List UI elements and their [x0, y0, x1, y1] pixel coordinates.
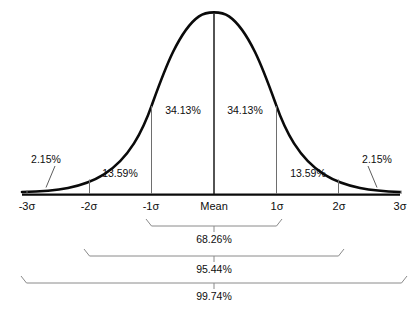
segment-label-inner-right: 34.13% [227, 104, 263, 116]
bracket-label-three-sigma: 99.74% [196, 290, 232, 302]
segment-label-mid-left: 13.59% [102, 167, 138, 179]
axis-tick-label-pos3sigma: 3σ [394, 200, 407, 212]
bracket-label-two-sigma: 95.44% [196, 263, 232, 275]
normal-distribution-figure: 34.13% 34.13% 13.59% 13.59% 2.15% 2.15% … [0, 0, 419, 319]
segment-label-tail-left: 2.15% [31, 153, 61, 165]
axis-tick-label-neg2sigma: -2σ [81, 200, 98, 212]
segment-label-tail-right: 2.15% [362, 153, 392, 165]
axis-tick-label-neg1sigma: -1σ [143, 200, 160, 212]
distribution-chart-canvas: 34.13% 34.13% 13.59% 13.59% 2.15% 2.15% … [0, 0, 419, 319]
axis-tick-label-mean: Mean [200, 200, 228, 212]
axis-tick-label-neg3sigma: -3σ [19, 200, 36, 212]
bracket-label-one-sigma: 68.26% [196, 233, 232, 245]
segment-label-inner-left: 34.13% [165, 104, 201, 116]
axis-tick-label-pos2sigma: 2σ [333, 200, 346, 212]
axis-tick-label-pos1sigma: 1σ [271, 200, 284, 212]
leader-line-tail-left [46, 166, 55, 188]
bracket-one-sigma [146, 219, 282, 226]
bracket-three-sigma [21, 276, 407, 283]
leader-line-tail-right [368, 166, 377, 188]
segment-label-mid-right: 13.59% [290, 167, 326, 179]
bell-curve-path [22, 12, 400, 192]
bracket-two-sigma [84, 249, 344, 256]
